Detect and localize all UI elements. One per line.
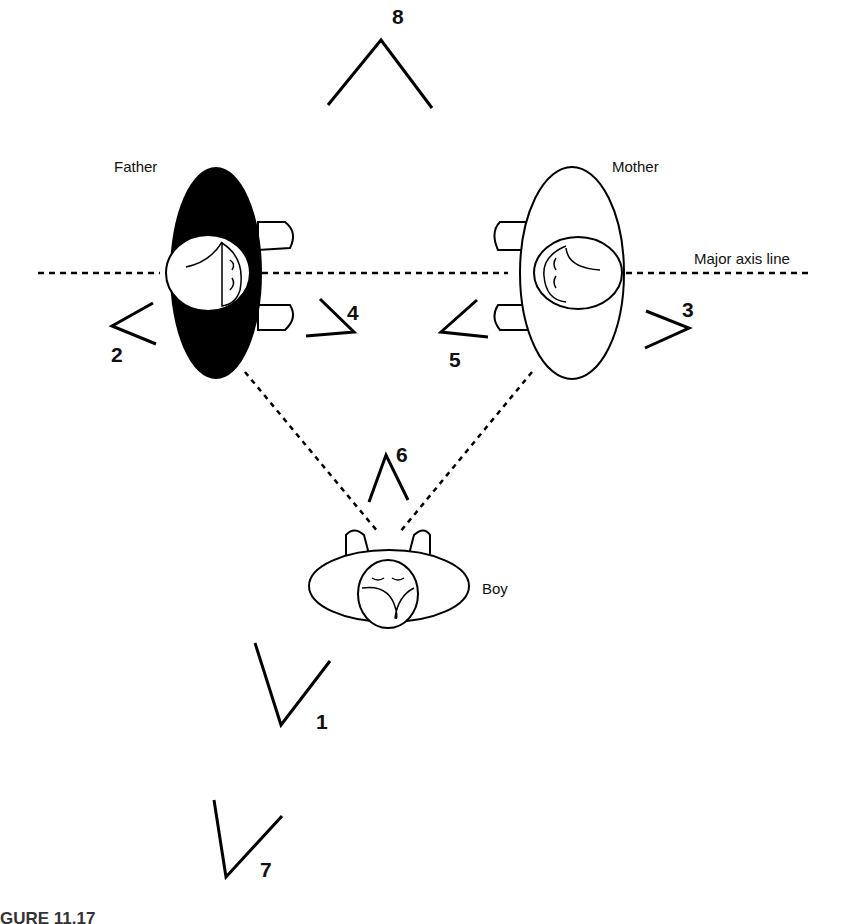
camera-6-number: 6 <box>396 443 408 467</box>
boy-label: Boy <box>482 580 508 597</box>
camera-2-marker <box>112 303 156 344</box>
camera-8-marker <box>328 40 432 108</box>
camera-4-number: 4 <box>347 301 359 325</box>
camera-7-number: 7 <box>260 858 272 882</box>
camera-5-marker <box>441 300 488 337</box>
camera-7-marker <box>214 800 282 877</box>
camera-3-number: 3 <box>682 298 694 322</box>
father-label: Father <box>114 158 157 175</box>
camera-5-number: 5 <box>449 348 461 372</box>
camera-1-number: 1 <box>316 710 328 734</box>
sightline-dotted <box>245 372 532 532</box>
mother-figure <box>494 167 624 379</box>
camera-8-number: 8 <box>392 5 404 29</box>
mother-label: Mother <box>612 158 659 175</box>
camera-2-number: 2 <box>111 343 123 367</box>
major-axis-label: Major axis line <box>694 250 790 267</box>
boy-figure <box>309 531 469 629</box>
blocking-diagram <box>0 0 844 924</box>
figure-caption: GURE 11.17 <box>0 909 95 924</box>
